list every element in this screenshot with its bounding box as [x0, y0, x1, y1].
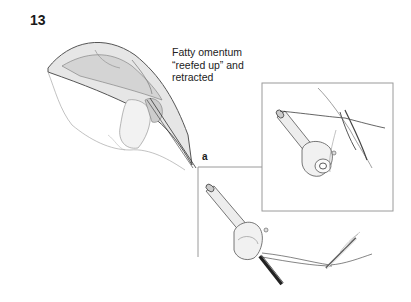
panel-b	[262, 83, 393, 211]
omentum-drawing	[48, 42, 196, 170]
surgical-illustration	[0, 0, 411, 302]
